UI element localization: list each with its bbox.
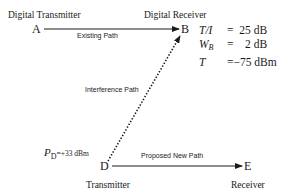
param-value: 2 dB xyxy=(245,37,267,51)
power-d-label: PD=+33 dBm xyxy=(44,146,89,161)
transmitter-label: Transmitter xyxy=(86,180,130,190)
existing-path-label: Existing Path xyxy=(77,32,118,39)
param-symbol: WB xyxy=(199,37,227,55)
parameters-block: T/I= 25 dB WB= 2 dB T=−75 dBm xyxy=(199,23,277,69)
interference-path-label: Interference Path xyxy=(85,86,139,93)
receiver-label: Receiver xyxy=(231,180,265,190)
param-value: 25 dB xyxy=(239,23,267,37)
param-t: T=−75 dBm xyxy=(199,55,277,69)
param-t-over-i: T/I= 25 dB xyxy=(199,23,277,37)
node-d: D xyxy=(100,159,109,174)
proposed-path-label: Proposed New Path xyxy=(141,152,203,159)
node-e: E xyxy=(244,159,251,174)
digital-transmitter-label: Digital Transmitter xyxy=(8,10,81,20)
interference-path-arrow xyxy=(108,36,180,161)
digital-receiver-label: Digital Receiver xyxy=(144,10,207,20)
param-symbol: T/I xyxy=(199,23,227,37)
param-symbol: T xyxy=(199,55,227,69)
node-a: A xyxy=(32,22,41,37)
node-b: B xyxy=(181,22,189,37)
param-wb: WB= 2 dB xyxy=(199,37,277,55)
param-value: −75 dBm xyxy=(234,55,277,69)
